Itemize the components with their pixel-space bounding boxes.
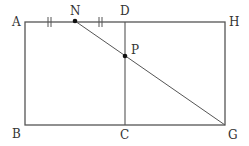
- point-N: [73, 19, 78, 24]
- label-A: A: [11, 15, 21, 29]
- label-H: H: [229, 15, 239, 29]
- label-C: C: [120, 128, 129, 142]
- point-P: [123, 54, 128, 59]
- label-D: D: [120, 4, 130, 18]
- label-B: B: [12, 127, 21, 141]
- label-G: G: [228, 128, 238, 142]
- label-P: P: [131, 43, 139, 57]
- label-N: N: [70, 4, 81, 18]
- geometry-diagram: A N D H P B C G: [0, 0, 249, 146]
- segment-NG: [75, 21, 225, 125]
- diagram-svg: A N D H P B C G: [0, 0, 249, 146]
